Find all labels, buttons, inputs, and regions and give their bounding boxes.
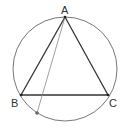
segment-ad	[37, 17, 65, 113]
point-d	[35, 111, 39, 115]
point-b	[20, 94, 23, 97]
point-c	[107, 94, 110, 97]
circumcircle	[13, 17, 117, 121]
triangle-abc	[21, 17, 108, 95]
point-a	[64, 16, 67, 19]
points	[20, 16, 110, 115]
inscribed-triangle-diagram: ABC	[0, 0, 127, 127]
label-b: B	[11, 97, 18, 109]
label-c: C	[109, 97, 117, 109]
label-a: A	[61, 4, 69, 16]
